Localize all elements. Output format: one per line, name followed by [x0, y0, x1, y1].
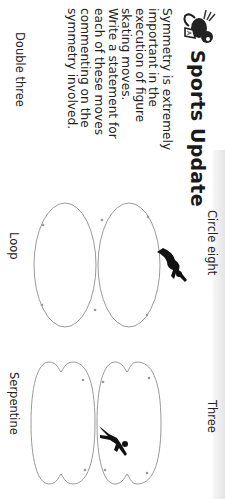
label-serpentine: Serpentine: [7, 372, 21, 435]
instructions: Symmetry is extremely important in the e…: [64, 8, 173, 158]
circle-eight-diagram: [25, 195, 165, 335]
label-circle-eight: Circle eight: [205, 210, 219, 275]
label-three: Three: [205, 400, 219, 433]
bee-mascot-icon: A: [181, 4, 221, 48]
page-edge-shadow: [213, 150, 225, 499]
label-loop: Loop: [7, 232, 21, 260]
skater-silhouette-icon: [95, 422, 135, 462]
intro-paragraph: Symmetry is extremely important in the e…: [119, 8, 173, 158]
skater-silhouette-icon: [157, 244, 191, 288]
page-title: Sports Update: [187, 50, 209, 207]
worksheet-page: A Sports Update Symmetry is extremely im…: [0, 0, 225, 499]
task-paragraph: Write a statement for each of these move…: [64, 8, 118, 158]
label-double-three: Double three: [13, 32, 27, 107]
